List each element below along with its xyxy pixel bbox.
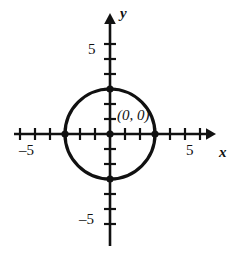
x-axis-tick-label-negative-five: –5 [19, 143, 34, 158]
point-bottom-intercept-marker [106, 175, 113, 182]
x-axis-label: x [219, 145, 227, 160]
y-axis-tick-label-positive-five: 5 [88, 42, 96, 57]
point-origin-marker [106, 130, 113, 137]
origin-point-label: (0, 0) [117, 108, 150, 123]
y-axis-tick-label-negative-five: –5 [79, 212, 94, 227]
point-top-intercept-marker [106, 85, 113, 92]
graph-canvas [0, 0, 243, 255]
x-axis-arrowhead-icon [206, 128, 216, 140]
y-axis-label: y [120, 6, 127, 21]
point-left-intercept-marker [61, 130, 68, 137]
coordinate-plane-figure: y x –5 5 5 –5 (0, 0) [0, 0, 243, 255]
point-right-intercept-marker [151, 130, 158, 137]
y-axis-arrowhead-icon [104, 13, 116, 24]
x-axis-tick-label-positive-five: 5 [186, 143, 194, 158]
